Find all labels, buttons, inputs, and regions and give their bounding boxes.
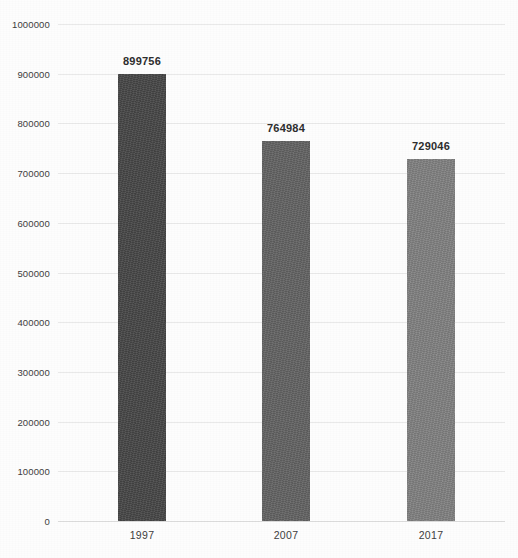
y-axis-tick-0: 0 bbox=[0, 516, 50, 527]
y-axis-tick-1000000: 1000000 bbox=[0, 19, 50, 30]
y-axis-tick-300000: 300000 bbox=[0, 366, 50, 377]
y-axis-tick-700000: 700000 bbox=[0, 168, 50, 179]
y-axis-tick-500000: 500000 bbox=[0, 267, 50, 278]
gridline-1000000 bbox=[58, 24, 505, 25]
y-axis-tick-900000: 900000 bbox=[0, 68, 50, 79]
bar-2017[interactable]: 729046 bbox=[407, 159, 455, 521]
x-axis-label-2017: 2017 bbox=[386, 529, 476, 541]
y-axis-tick-800000: 800000 bbox=[0, 118, 50, 129]
y-axis-tick-200000: 200000 bbox=[0, 416, 50, 427]
bar-value-label-2017: 729046 bbox=[412, 140, 450, 152]
bar-1997[interactable]: 899756 bbox=[118, 74, 166, 521]
bar-value-label-2007: 764984 bbox=[267, 122, 305, 134]
bar-chart: 1000000 900000 800000 700000 600000 5000… bbox=[0, 0, 518, 558]
bar-value-label-1997: 899756 bbox=[123, 55, 161, 67]
x-axis-label-2007: 2007 bbox=[241, 529, 331, 541]
bar-fill-2017 bbox=[407, 159, 455, 521]
bar-fill-1997 bbox=[118, 74, 166, 521]
y-axis-tick-400000: 400000 bbox=[0, 317, 50, 328]
bar-fill-2007 bbox=[262, 141, 310, 521]
plot-area: 899756 764984 729046 bbox=[58, 24, 505, 521]
y-axis-tick-600000: 600000 bbox=[0, 217, 50, 228]
gridline-baseline-0 bbox=[58, 521, 505, 522]
bar-2007[interactable]: 764984 bbox=[262, 141, 310, 521]
y-axis-tick-100000: 100000 bbox=[0, 466, 50, 477]
x-axis-label-1997: 1997 bbox=[97, 529, 187, 541]
